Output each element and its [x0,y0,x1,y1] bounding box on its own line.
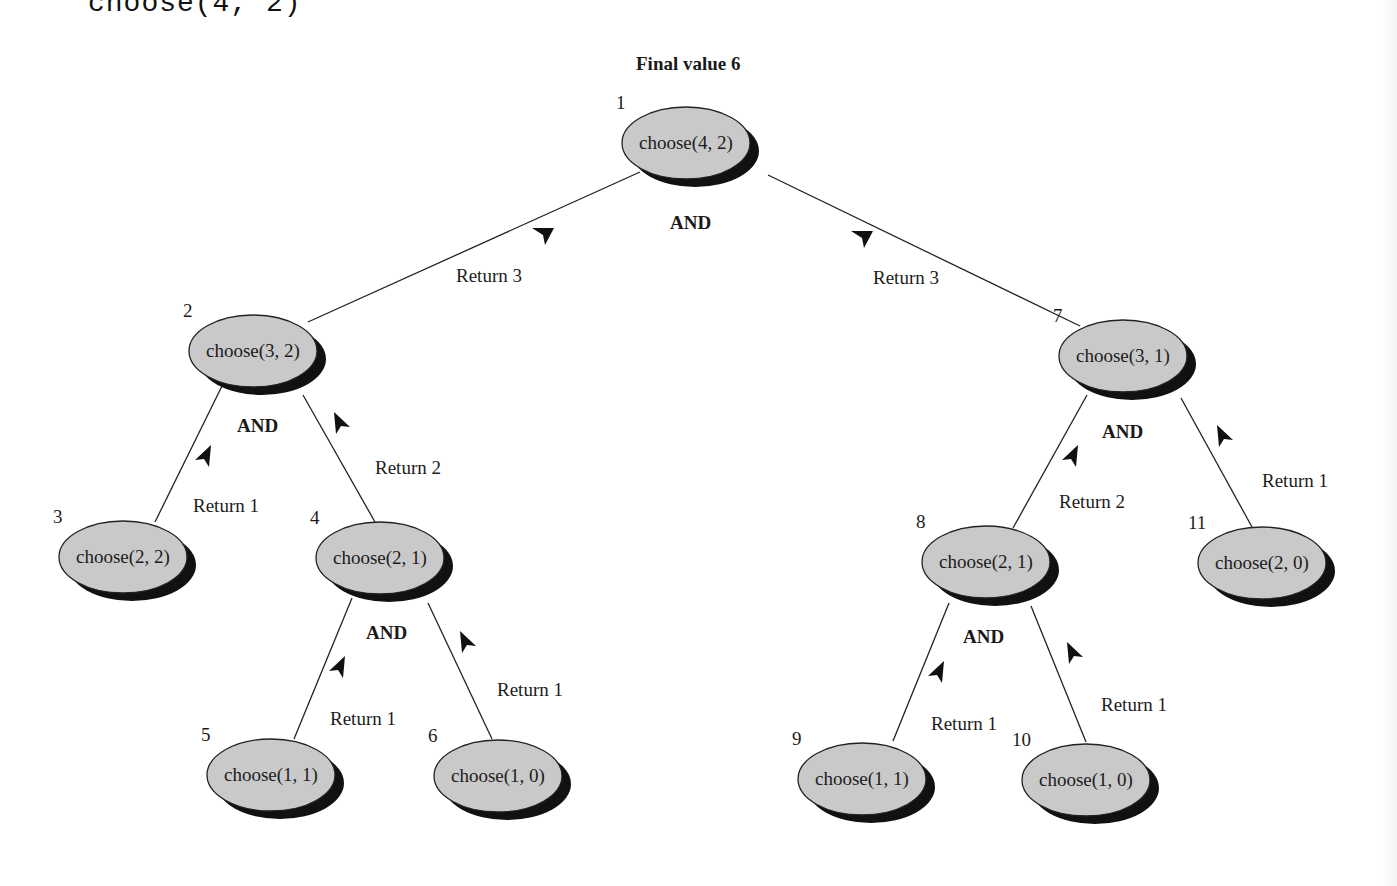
edge-line [1181,398,1252,527]
node-order-number: 3 [53,506,63,527]
return-label: Return 3 [456,265,522,286]
node-call-label: choose(1, 0) [1039,769,1133,791]
call-node-9: choose(1, 1)9 [792,728,935,823]
return-arrow-icon [851,231,873,248]
return-arrow-icon [1217,425,1233,447]
node-order-number: 2 [183,300,193,321]
and-label: AND [963,626,1004,647]
final-value-label: Final value 6 [636,53,741,74]
call-node-2: choose(3, 2)2 [183,300,326,395]
return-arrow-icon [532,228,554,245]
node-order-number: 11 [1188,512,1206,533]
call-tree-canvas: Final value 6 Return 3Return 3Return 1Re… [0,0,1397,886]
edge-1-7: Return 3 [768,175,1080,326]
recursion-tree-diagram: choose(4, 2) Final value 6 Return 3Retur… [0,0,1397,886]
node-order-number: 10 [1012,729,1031,750]
return-label: Return 1 [193,495,259,516]
node-call-label: choose(2, 1) [939,551,1033,573]
return-label: Return 2 [375,457,441,478]
node-call-label: choose(4, 2) [639,132,733,154]
node-call-label: choose(1, 1) [224,764,318,786]
node-call-label: choose(3, 1) [1076,345,1170,367]
node-call-label: choose(1, 0) [451,765,545,787]
edge-2-4: Return 2 [303,395,441,522]
call-node-7: choose(3, 1)7 [1053,305,1196,400]
edge-7-11: Return 1 [1181,398,1328,527]
edge-8-9: Return 1 [893,603,997,741]
return-label: Return 1 [497,679,563,700]
node-call-label: choose(2, 2) [76,546,170,568]
page-edge [1383,0,1397,886]
and-label: AND [670,212,711,233]
call-node-4: choose(2, 1)4 [310,507,453,602]
return-arrow-icon [928,661,944,683]
call-node-8: choose(2, 1)8 [916,511,1059,606]
edge-2-3: Return 1 [155,386,259,522]
call-node-6: choose(1, 0)6 [428,725,571,820]
edge-line [1031,606,1086,742]
return-arrow-icon [329,656,345,678]
edge-line [308,172,640,322]
code-title: choose(4, 2) [88,0,302,19]
and-label: AND [366,622,407,643]
return-label: Return 1 [330,708,396,729]
node-order-number: 5 [201,724,211,745]
return-label: Return 1 [931,713,997,734]
edge-4-5: Return 1 [294,598,396,739]
call-node-10: choose(1, 0)10 [1012,729,1159,824]
edge-4-6: Return 1 [428,603,563,739]
return-label: Return 2 [1059,491,1125,512]
return-arrow-icon [1067,642,1083,664]
return-arrow-icon [1062,445,1078,467]
node-order-number: 8 [916,511,926,532]
node-order-number: 6 [428,725,438,746]
node-order-number: 7 [1053,305,1063,326]
node-call-label: choose(2, 1) [333,547,427,569]
return-arrow-icon [334,412,350,434]
node-order-number: 9 [792,728,802,749]
node-call-label: choose(1, 1) [815,768,909,790]
node-order-number: 4 [310,507,320,528]
and-label: AND [237,415,278,436]
edge-line [303,395,375,522]
edge-line [428,603,492,739]
edge-8-10: Return 1 [1031,606,1167,742]
call-node-11: choose(2, 0)11 [1188,512,1335,607]
and-label: AND [1102,421,1143,442]
call-node-3: choose(2, 2)3 [53,506,196,601]
node-call-label: choose(3, 2) [206,340,300,362]
edge-line [768,175,1080,326]
call-node-5: choose(1, 1)5 [201,724,344,819]
return-arrow-icon [460,631,476,653]
edge-1-2: Return 3 [308,172,640,322]
return-label: Return 3 [873,267,939,288]
edges-layer: Return 3Return 3Return 1Return 2Return 1… [155,172,1328,742]
return-arrow-icon [195,445,211,467]
edge-7-8: Return 2 [1013,395,1125,528]
node-call-label: choose(2, 0) [1215,552,1309,574]
return-label: Return 1 [1262,470,1328,491]
node-order-number: 1 [616,92,626,113]
return-label: Return 1 [1101,694,1167,715]
